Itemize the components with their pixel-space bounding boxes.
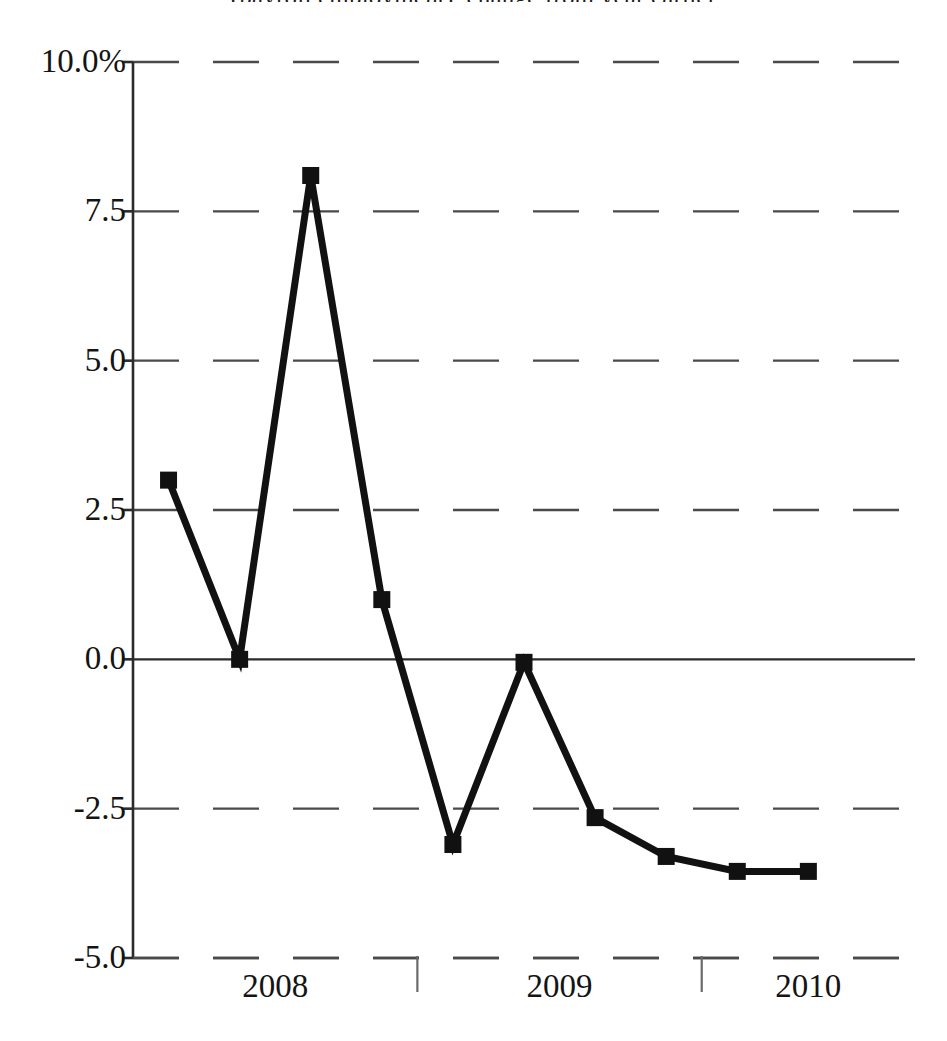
x-axis-tick-label: 2010 <box>728 970 888 1003</box>
data-point-marker <box>444 836 461 853</box>
y-axis-tick-label: 10.0% <box>6 45 126 78</box>
data-point-marker <box>231 651 248 668</box>
data-point-marker <box>373 591 390 608</box>
data-point-marker <box>800 863 817 880</box>
y-axis-tick-label: -5.0 <box>6 941 126 974</box>
data-series-line <box>169 175 809 871</box>
line-chart-plot <box>0 0 947 1041</box>
gridline-group <box>133 62 915 958</box>
y-axis-tick-label: 7.5 <box>6 194 126 227</box>
data-point-marker <box>587 809 604 826</box>
data-point-marker <box>516 654 533 671</box>
y-axis-tick-label: 5.0 <box>6 344 126 377</box>
x-axis-tick-label: 2009 <box>480 970 640 1003</box>
data-point-marker <box>729 863 746 880</box>
y-tick-label-group: 10.0%7.55.02.50.0-2.5-5.0 <box>0 0 126 1041</box>
data-point-marker <box>160 472 177 489</box>
x-axis-tick-label: 2008 <box>195 970 355 1003</box>
y-axis-tick-label: -2.5 <box>6 792 126 825</box>
data-line-group <box>169 175 809 871</box>
data-point-marker <box>302 167 319 184</box>
y-axis-tick-label: 2.5 <box>6 493 126 526</box>
y-axis-tick-label: 0.0 <box>6 642 126 675</box>
data-point-marker <box>658 848 675 865</box>
chart-container: (payroll employment), change from year e… <box>0 0 947 1041</box>
